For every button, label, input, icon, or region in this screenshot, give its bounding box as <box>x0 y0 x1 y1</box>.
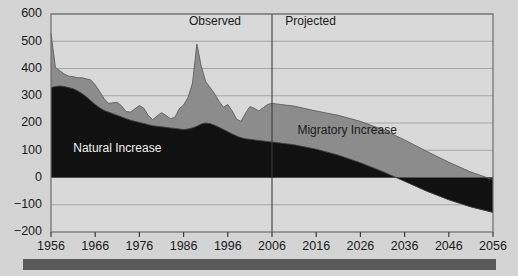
observed-label: Observed <box>189 14 241 28</box>
population-increase-area-chart: −200−1000100200300400500600 195619661976… <box>0 0 518 276</box>
y-tick-label-600: 600 <box>21 6 42 20</box>
y-tick-label--100: −100 <box>14 197 42 211</box>
x-tick-label-2056: 2056 <box>479 239 507 253</box>
x-tick-label-2026: 2026 <box>346 239 374 253</box>
x-tick-label-1986: 1986 <box>170 239 198 253</box>
y-tick-label--200: −200 <box>14 224 42 238</box>
y-tick-label-500: 500 <box>21 34 42 48</box>
migratory-increase-label: Migratory Increase <box>297 123 397 137</box>
bottom-decorative-bar <box>23 259 496 270</box>
x-tick-label-1966: 1966 <box>81 239 109 253</box>
natural-increase-label: Natural Increase <box>73 141 161 155</box>
chart-page: −200−1000100200300400500600 195619661976… <box>0 0 518 276</box>
y-tick-label-200: 200 <box>21 115 42 129</box>
y-tick-label-100: 100 <box>21 143 42 157</box>
x-tick-label-2006: 2006 <box>258 239 286 253</box>
x-tick-label-2016: 2016 <box>302 239 330 253</box>
x-tick-label-1996: 1996 <box>214 239 242 253</box>
x-tick-label-2046: 2046 <box>435 239 463 253</box>
x-tick-label-1956: 1956 <box>37 239 65 253</box>
x-axis-labels: 1956196619761986199620062016202620362046… <box>37 239 507 253</box>
x-tick-label-2036: 2036 <box>391 239 419 253</box>
y-tick-label-0: 0 <box>35 170 42 184</box>
projected-label: Projected <box>285 14 336 28</box>
x-tick-label-1976: 1976 <box>125 239 153 253</box>
y-tick-label-400: 400 <box>21 61 42 75</box>
y-tick-label-300: 300 <box>21 88 42 102</box>
